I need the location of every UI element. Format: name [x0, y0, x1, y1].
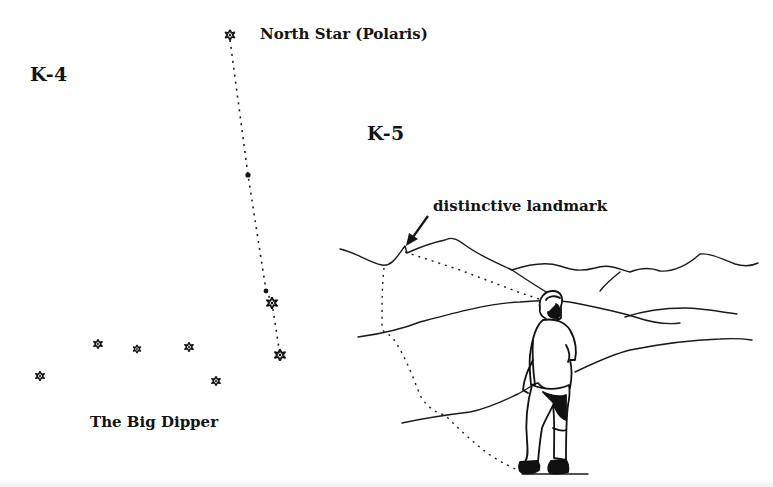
landmark-arrow-icon	[406, 216, 428, 246]
star-icon-dipper-handle-end	[36, 371, 44, 380]
figure-label-k5: K-5	[367, 122, 405, 144]
landmark-label: distinctive landmark	[433, 197, 607, 215]
star-icon-dipper-handle-3	[133, 345, 140, 353]
hill-line-3	[575, 339, 752, 372]
hill-line-1	[358, 301, 680, 337]
hill-line-1b	[625, 308, 737, 317]
star-icon-dipper-pointer-bottom	[275, 349, 285, 360]
figure-label-k4: K-4	[30, 63, 68, 85]
pointer-marker-icon	[264, 289, 269, 294]
hiker-boot-left	[519, 461, 539, 473]
star-icon-dipper-handle-2	[94, 339, 102, 348]
sight-lines	[382, 252, 548, 472]
star-icon-dipper-pointer-top	[267, 297, 277, 308]
polaris-label: North Star (Polaris)	[260, 25, 428, 43]
big-dipper-label: The Big Dipper	[90, 413, 218, 431]
ridge-line-far	[340, 238, 560, 300]
star-icon-dipper-bowl-bottom-left	[212, 376, 220, 385]
pointer-marker-icon	[245, 172, 250, 177]
hiker-boot-right	[548, 460, 568, 474]
ridge-line-back-right	[512, 254, 758, 272]
star-field	[36, 30, 285, 386]
star-icon-polaris	[225, 30, 234, 40]
page-edge	[0, 478, 773, 487]
hill-line-2	[402, 385, 533, 423]
ridge-line-mid	[600, 272, 620, 291]
star-icon-dipper-bowl-top-left	[185, 342, 193, 351]
hiker-figure	[519, 291, 576, 474]
